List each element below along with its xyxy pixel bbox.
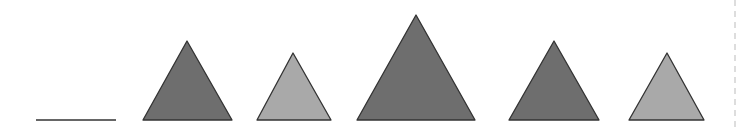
- triangle-2-light: [257, 53, 331, 120]
- triangle-1-dark: [143, 41, 232, 120]
- triangle-3-dark: [357, 15, 475, 120]
- triangle-5-light: [629, 53, 704, 120]
- triangle-4-dark: [509, 41, 599, 120]
- triangles-group: [143, 15, 704, 120]
- triangle-sequence-diagram: [0, 0, 740, 128]
